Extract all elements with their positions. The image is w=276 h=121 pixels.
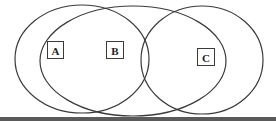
label-c: C: [202, 52, 210, 64]
label-b: B: [111, 45, 119, 57]
label-a: A: [52, 45, 60, 57]
venn-diagram: A B C: [0, 0, 276, 121]
ellipse-outer-left: [15, 5, 149, 113]
label-box-a: A: [48, 42, 64, 59]
label-box-b: B: [107, 42, 124, 59]
bottom-rule: [0, 117, 276, 121]
label-box-c: C: [198, 49, 215, 66]
